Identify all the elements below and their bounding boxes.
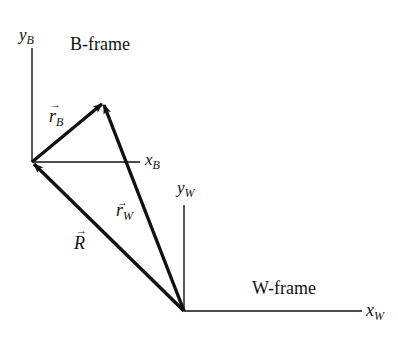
w-frame-x-axis-label: xW — [365, 300, 385, 323]
b-frame-x-axis-label: xB — [144, 150, 161, 172]
svg-text:R: R — [73, 233, 85, 253]
vector-r-w-label: → rW — [116, 196, 134, 223]
vector-R-label: → R — [73, 224, 87, 253]
vector-r-b-label: → rB — [49, 98, 64, 129]
vector-r-b — [32, 104, 102, 162]
b-frame-y-axis-label: yB — [17, 25, 35, 47]
w-frame-y-axis-label: yW — [175, 178, 196, 200]
b-frame-title: B-frame — [70, 34, 130, 54]
w-frame-title: W-frame — [252, 278, 316, 298]
frames-vector-diagram: yB B-frame xB → rB yW → rW → R W-frame — [0, 0, 398, 343]
b-frame-axes — [32, 48, 140, 162]
vector-R — [34, 164, 184, 311]
